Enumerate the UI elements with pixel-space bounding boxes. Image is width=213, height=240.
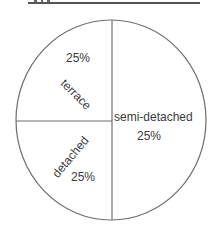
slice-value-semi-detached: 25% — [137, 130, 161, 142]
slice-value-detached: 25% — [71, 171, 95, 183]
slice-label-semi-detached: semi-detached — [114, 111, 193, 123]
slice-value-terrace: 25% — [66, 52, 90, 64]
